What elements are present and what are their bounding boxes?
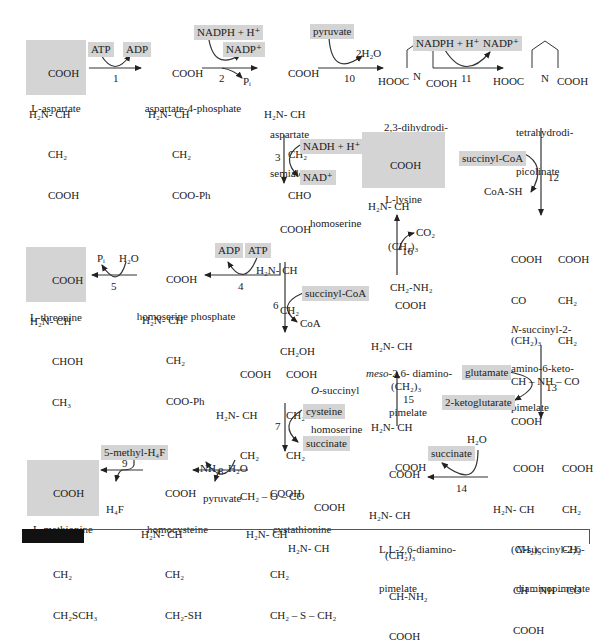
formula-line: CH₂ – S – CH₂ bbox=[246, 609, 336, 623]
label-line: diaminopimelate bbox=[516, 582, 590, 595]
formula-line: COO-Ph bbox=[148, 189, 211, 203]
formula-line: COOH bbox=[558, 253, 589, 267]
formula-line: COOH bbox=[26, 274, 86, 288]
step-number-10: 10 bbox=[344, 72, 355, 84]
label-l-lysine: L-lysine bbox=[362, 193, 445, 206]
formula-line: CH₂ bbox=[148, 148, 211, 162]
formula-line: H₂N- CH bbox=[256, 264, 315, 278]
step-number-6: 6 bbox=[273, 299, 279, 311]
product-pyruvate-8: pyruvate bbox=[203, 492, 241, 505]
step-number-8: 8 bbox=[218, 465, 224, 477]
product-pi-2: Pᵢ bbox=[243, 75, 251, 88]
formula-line: COOH bbox=[256, 223, 315, 237]
cofactor-succinate-14: succinate bbox=[428, 446, 475, 461]
figure-caption-marker bbox=[22, 529, 84, 543]
cofactor-h2o-14: H₂O bbox=[467, 433, 487, 446]
formula-line: COOH bbox=[142, 273, 205, 287]
step-number-5: 5 bbox=[111, 280, 117, 292]
curve-step-11 bbox=[445, 50, 490, 67]
formula-line: COO-Ph bbox=[142, 395, 205, 409]
step-number-2: 2 bbox=[219, 72, 225, 84]
step-number-7: 7 bbox=[275, 420, 281, 432]
label-line: picolinate bbox=[516, 165, 573, 178]
formula-line: CH₂ bbox=[562, 503, 593, 517]
label-line: tetrahydrodi- bbox=[516, 126, 573, 139]
formula-line: COOH bbox=[562, 462, 593, 476]
step-number-9: 9 bbox=[122, 457, 128, 469]
formula-line: COOH bbox=[371, 299, 426, 313]
formula-line: CHOH bbox=[26, 355, 86, 369]
cofactor-nadph-11: NADPH + H⁺ bbox=[413, 36, 482, 51]
label-tetrahydrodipicolinate: tetrahydrodi- picolinate bbox=[516, 100, 573, 191]
formula-line: CH₃ bbox=[26, 396, 86, 410]
cofactor-nadp-2: NADP⁺ bbox=[223, 42, 265, 57]
compound-aspartate-4-phosphate: COOH H₂N- CH CH₂ COO-Ph bbox=[148, 40, 211, 216]
product-coa-6: CoA bbox=[300, 317, 321, 330]
formula-line: COOH bbox=[369, 630, 428, 644]
step-number-1: 1 bbox=[113, 72, 119, 84]
dihydro-hooc: HOOC bbox=[378, 75, 409, 88]
label-line: pimelate bbox=[379, 582, 456, 595]
label-line: pimelate bbox=[366, 406, 450, 419]
cofactor-atp-1: ATP bbox=[88, 42, 114, 57]
product-nh3-8: NH₃ bbox=[200, 462, 220, 475]
compound-l-aspartate: COOH H₂N- CH CH₂ COOH bbox=[26, 40, 86, 95]
formula-line: CH₂ bbox=[256, 304, 315, 318]
formula-line: CH₂ bbox=[141, 568, 202, 582]
cofactor-adp-1: ADP bbox=[123, 42, 151, 57]
compound-cystathionine-right: COOH H₂N- CH bbox=[288, 474, 345, 569]
formula-line: CH₂ bbox=[246, 568, 336, 582]
tetrahydro-hooc: HOOC bbox=[493, 75, 524, 88]
formula-line: COOH bbox=[148, 67, 211, 81]
step-number-3: 3 bbox=[275, 151, 281, 163]
product-2h2o-10: 2H₂O bbox=[356, 47, 381, 60]
cofactor-h2o-8: H₂O bbox=[228, 462, 248, 475]
step-number-15: 15 bbox=[403, 393, 414, 405]
label-homoserine: homoserine bbox=[310, 217, 361, 230]
step-number-11: 11 bbox=[461, 72, 472, 84]
cofactor-succinyl-coa-6: succinyl-CoA bbox=[302, 286, 369, 301]
step-number-16: 16 bbox=[402, 245, 413, 257]
label-n-succinyl-2-amino-6-ketopimelate: N-succinyl-2- amino-6-keto- pimelate bbox=[511, 297, 574, 427]
label-line: -succinyl-2- bbox=[518, 323, 571, 335]
cofactor-cysteine-7: cysteine bbox=[303, 404, 345, 419]
compound-l-threonine: COOH H₂N- CH CHOH CH₃ bbox=[26, 247, 86, 302]
cofactor-2-ketoglutarate-13: 2-ketoglutarate bbox=[442, 395, 515, 410]
cofactor-5-methyl-h4f-9: 5-methyl-H₄F bbox=[101, 445, 168, 460]
formula-line: COOH bbox=[369, 468, 428, 482]
step-number-4: 4 bbox=[238, 280, 244, 292]
dihydro-n: N bbox=[413, 70, 421, 83]
label-line: -succinyl-2,6- bbox=[523, 543, 584, 555]
dihydro-cooh: COOH bbox=[426, 77, 457, 90]
compound-homoserine-phosphate: COOH H₂N- CH CH₂ COO-Ph bbox=[142, 246, 205, 422]
product-pi-5: Pᵢ bbox=[97, 252, 105, 265]
label-homoserine-phosphate: homoserine phosphate bbox=[136, 310, 236, 323]
formula-line: CH₂ bbox=[26, 148, 86, 162]
cofactor-succinyl-coa-12: succinyl-CoA bbox=[459, 151, 526, 166]
cofactor-pyruvate-10: pyruvate bbox=[310, 24, 354, 39]
cofactor-adp-4: ADP bbox=[215, 243, 243, 258]
label-l-aspartate: L-aspartate bbox=[26, 102, 86, 115]
formula-line: COOH bbox=[493, 624, 581, 638]
tetrahydro-cooh: COOH bbox=[557, 75, 588, 88]
cofactor-nadp-11: NADP⁺ bbox=[480, 36, 522, 51]
formula-line: COOH bbox=[27, 487, 99, 501]
formula-line: COOH bbox=[288, 501, 345, 515]
label-line: -succinyl bbox=[319, 384, 359, 396]
product-h4f-9: H₄F bbox=[106, 503, 124, 516]
step-number-12: 12 bbox=[548, 171, 559, 183]
cofactor-nadh-3: NADH + H⁺ bbox=[300, 139, 363, 154]
figure-caption-frame bbox=[84, 529, 590, 544]
cofactor-nad-3: NAD⁺ bbox=[300, 170, 336, 185]
label-line: homoserine bbox=[311, 423, 362, 436]
cofactor-glutamate-13: glutamate bbox=[462, 365, 511, 380]
formula-line: COOH bbox=[362, 159, 445, 173]
label-aspartate-4-phosphate: aspartate-4-phosphate bbox=[138, 102, 248, 115]
label-italic: O bbox=[311, 384, 319, 396]
compound-l-lysine: COOH H₂N- CH (CH₂)₃ CH₂-NH₂ bbox=[362, 132, 445, 188]
formula-line: COOH bbox=[141, 487, 202, 501]
cofactor-h2o-5: H₂O bbox=[119, 252, 139, 265]
step-number-14: 14 bbox=[456, 482, 467, 494]
label-line: -2,6- diamino- bbox=[389, 367, 453, 379]
formula-line: COOH bbox=[264, 67, 319, 81]
